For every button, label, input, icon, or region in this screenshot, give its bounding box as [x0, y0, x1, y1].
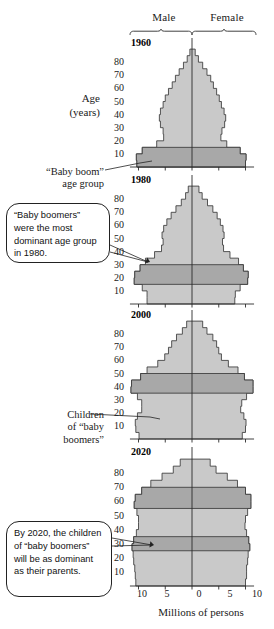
panel-year-label: 1960: [131, 37, 151, 48]
population-pyramid-figure: Male Female Age (years) “Baby boom” age …: [0, 0, 274, 629]
panel-year-label: 2020: [131, 446, 151, 457]
panel-year-label: 2000: [131, 309, 151, 320]
panel-year-label-layer: 1960198020002020: [0, 0, 274, 629]
panel-year-label: 1980: [131, 174, 151, 185]
